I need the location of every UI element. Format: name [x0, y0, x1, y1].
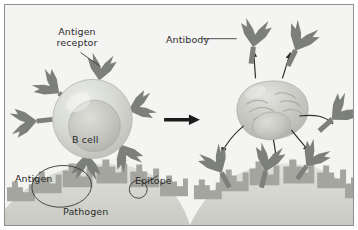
- plasma-cell: [237, 81, 308, 142]
- transition-arrow: [164, 115, 200, 125]
- diagram-artwork: [5, 5, 353, 225]
- b-cell: [53, 79, 133, 158]
- figure-container: Antigen receptor Antibody B cell Antigen…: [0, 0, 358, 230]
- figure-frame: Antigen receptor Antibody B cell Antigen…: [4, 4, 354, 226]
